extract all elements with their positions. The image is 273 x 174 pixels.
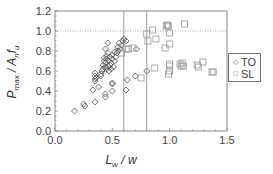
svg-text:1.0: 1.0 [36,25,51,37]
axis-ticks [55,11,227,131]
svg-text:0.5: 0.5 [105,134,120,146]
svg-text:1.2: 1.2 [36,5,51,17]
legend-item-to: ◇ TO [232,56,260,68]
legend-label-sl: SL [241,68,254,80]
svg-text:0.4: 0.4 [36,85,51,97]
svg-text:0.2: 0.2 [36,105,51,117]
tick-labels: 0.00.20.40.60.81.01.20.00.51.01.5 [36,5,235,146]
plot-area [55,11,227,131]
svg-text:0.6: 0.6 [36,65,51,77]
svg-text:1.0: 1.0 [162,134,177,146]
legend-item-sl: □ SL [232,68,260,80]
svg-text:0.0: 0.0 [47,134,62,146]
data-points [71,21,216,114]
diamond-marker-icon: ◇ [232,56,239,68]
svg-text:0.8: 0.8 [36,45,51,57]
y-axis-title: Pmax / Anfu [5,45,21,99]
reference-lines [55,11,227,131]
scatter-chart: 0.00.20.40.60.81.01.20.00.51.01.5 Lw / w… [0,0,273,174]
x-axis-title: Lw / w [105,153,137,169]
legend-label-to: TO [241,56,256,68]
square-marker-icon: □ [232,68,239,80]
svg-text:1.5: 1.5 [219,134,234,146]
legend: ◇ TO □ SL [228,53,261,82]
